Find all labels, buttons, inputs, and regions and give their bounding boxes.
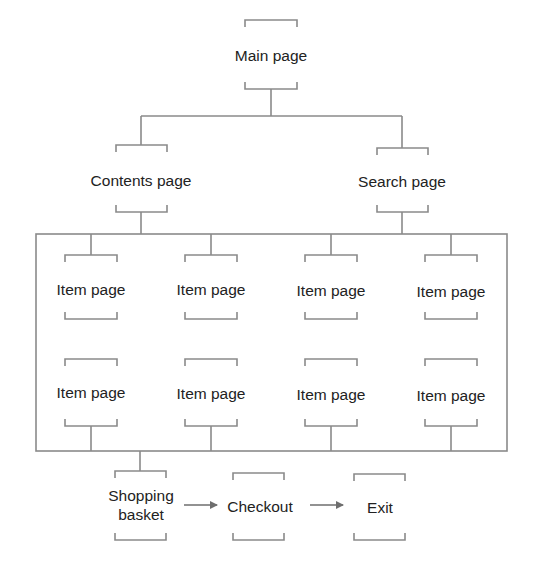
item-row2-brackets bbox=[65, 359, 477, 426]
node-item-page: Item page bbox=[297, 385, 366, 404]
node-item-page: Item page bbox=[297, 281, 366, 300]
node-exit: Exit bbox=[367, 498, 393, 517]
node-item-page: Item page bbox=[417, 282, 486, 301]
node-item-page: Item page bbox=[57, 383, 126, 402]
node-shopping-basket: Shopping basket bbox=[108, 486, 174, 524]
item-row1-brackets bbox=[65, 255, 477, 319]
node-search-page: Search page bbox=[358, 172, 446, 191]
node-main-page: Main page bbox=[235, 46, 307, 65]
basket-label-line2: basket bbox=[108, 505, 174, 524]
basket-label-line1: Shopping bbox=[108, 486, 174, 505]
node-checkout: Checkout bbox=[227, 497, 292, 516]
node-contents-page: Contents page bbox=[91, 171, 192, 190]
item-pages-group-box bbox=[36, 234, 507, 451]
node-item-page: Item page bbox=[57, 280, 126, 299]
node-item-page: Item page bbox=[177, 280, 246, 299]
node-item-page: Item page bbox=[417, 386, 486, 405]
node-item-page: Item page bbox=[177, 384, 246, 403]
